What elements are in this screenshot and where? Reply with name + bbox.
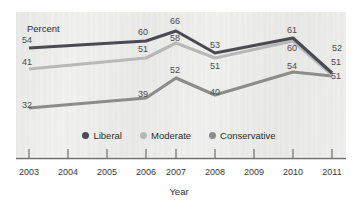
value-label-moderate: 51 xyxy=(331,58,341,67)
value-label-moderate: 51 xyxy=(138,45,148,54)
value-label-liberal: 66 xyxy=(170,17,180,26)
x-tick-label: 2003 xyxy=(19,167,39,177)
legend-item-liberal[interactable]: Liberal xyxy=(82,130,122,141)
value-label-liberal: 52 xyxy=(332,44,342,53)
x-tick-label: 2007 xyxy=(166,167,186,177)
x-tick-label: 2010 xyxy=(283,167,303,177)
line-chart: Percent Year 2003 2004 2005 2006 2007 20… xyxy=(0,0,358,207)
value-label-conservative: 54 xyxy=(287,62,297,71)
series-line-conservative xyxy=(29,72,332,108)
value-label-moderate: 51 xyxy=(210,62,220,71)
value-label-liberal: 60 xyxy=(138,28,148,37)
legend-dot-icon xyxy=(209,132,216,139)
chart-legend: Liberal Moderate Conservative xyxy=(0,130,358,141)
legend-item-moderate[interactable]: Moderate xyxy=(140,130,191,141)
legend-dot-icon xyxy=(140,132,147,139)
x-tick-label: 2011 xyxy=(322,167,341,177)
x-axis-title: Year xyxy=(0,186,358,197)
legend-label: Conservative xyxy=(220,130,275,141)
value-label-liberal: 54 xyxy=(22,36,32,45)
value-label-conservative: 40 xyxy=(210,88,220,97)
x-tick-label: 2008 xyxy=(205,167,225,177)
x-tick-label: 2006 xyxy=(136,167,156,177)
value-label-moderate: 58 xyxy=(170,34,180,43)
x-tick-label: 2005 xyxy=(97,167,117,177)
legend-item-conservative[interactable]: Conservative xyxy=(209,130,275,141)
value-label-liberal: 61 xyxy=(287,26,297,35)
y-axis-title: Percent xyxy=(27,23,60,34)
value-label-conservative: 51 xyxy=(331,72,341,81)
value-label-moderate: 60 xyxy=(287,44,297,53)
legend-label: Moderate xyxy=(151,130,191,141)
x-axis-ticks xyxy=(29,149,332,158)
x-tick-label: 2004 xyxy=(58,167,78,177)
value-label-liberal: 53 xyxy=(210,41,220,50)
value-label-conservative: 39 xyxy=(138,90,148,99)
value-label-moderate: 41 xyxy=(22,58,32,67)
value-label-conservative: 32 xyxy=(22,101,32,110)
legend-dot-icon xyxy=(82,132,89,139)
legend-label: Liberal xyxy=(93,130,122,141)
x-tick-label: 2009 xyxy=(244,167,264,177)
value-label-conservative: 52 xyxy=(170,66,180,75)
